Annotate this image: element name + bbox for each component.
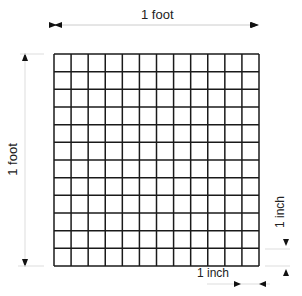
bottom-small-label: 1 inch	[197, 266, 229, 280]
grid-svg	[0, 0, 302, 296]
top-label: 1 foot	[141, 7, 174, 22]
right-small-label: 1 inch	[273, 196, 287, 228]
left-label: 1 foot	[5, 143, 20, 176]
grid-diagram: 1 foot 1 foot 1 inch 1 inch	[0, 0, 302, 296]
